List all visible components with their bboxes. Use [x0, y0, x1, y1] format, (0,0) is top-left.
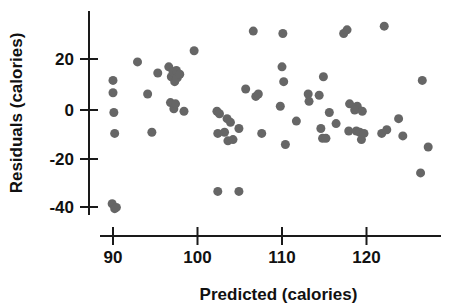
data-point	[416, 168, 425, 177]
data-point	[241, 85, 250, 94]
y-axis-tick-label: -20	[49, 150, 74, 169]
data-point	[325, 108, 334, 117]
data-point	[171, 99, 180, 108]
data-point	[213, 187, 222, 196]
data-point	[316, 124, 325, 133]
data-point	[254, 89, 263, 98]
data-point	[179, 107, 188, 116]
x-axis: 90100110120	[100, 227, 441, 267]
x-axis-title: Predicted (calories)	[200, 285, 358, 304]
data-point	[226, 118, 235, 127]
data-point	[228, 135, 237, 144]
data-point	[279, 77, 288, 86]
data-point	[109, 76, 118, 85]
data-point	[234, 124, 243, 133]
data-point	[109, 108, 118, 117]
data-point	[382, 125, 391, 134]
data-point	[147, 128, 156, 137]
scatter-plot-figure: 200-20-40 90100110120 Predicted (calorie…	[0, 0, 452, 308]
data-point	[190, 46, 199, 55]
data-point	[278, 62, 287, 71]
data-point	[319, 72, 328, 81]
data-point	[249, 27, 258, 36]
y-axis-tick-label: 0	[65, 101, 74, 120]
data-point	[418, 76, 427, 85]
x-axis-tick-label: 90	[104, 248, 123, 267]
data-point	[153, 69, 162, 78]
data-points-layer	[108, 22, 433, 214]
data-point	[257, 129, 266, 138]
data-point	[350, 106, 359, 115]
data-point	[110, 129, 119, 138]
data-point	[276, 102, 285, 111]
plot-canvas: 200-20-40 90100110120 Predicted (calorie…	[0, 0, 452, 308]
data-point	[281, 140, 290, 149]
y-axis-title: Residuals (calories)	[7, 33, 26, 194]
data-point	[109, 88, 118, 97]
data-point	[215, 109, 224, 118]
x-axis-tick-label: 110	[268, 248, 295, 267]
data-point	[332, 119, 341, 128]
data-point	[143, 89, 152, 98]
y-axis: 200-20-40	[49, 11, 98, 217]
data-point	[321, 134, 330, 143]
data-point	[175, 70, 184, 79]
data-point	[343, 25, 352, 34]
data-point	[380, 22, 389, 31]
data-point	[220, 128, 229, 137]
data-point	[394, 114, 403, 123]
data-point	[358, 107, 367, 116]
y-axis-tick-label: -40	[49, 198, 74, 217]
x-axis-tick-label: 120	[352, 248, 380, 267]
data-point	[398, 131, 407, 140]
data-point	[359, 129, 368, 138]
x-axis-tick-label: 100	[183, 248, 211, 267]
data-point	[305, 97, 314, 106]
data-point	[112, 203, 121, 212]
data-point	[278, 29, 287, 38]
data-point	[234, 187, 243, 196]
data-point	[315, 91, 324, 100]
data-point	[292, 117, 301, 126]
data-point	[424, 143, 433, 152]
y-axis-tick-label: 20	[55, 50, 74, 69]
data-point	[133, 57, 142, 66]
